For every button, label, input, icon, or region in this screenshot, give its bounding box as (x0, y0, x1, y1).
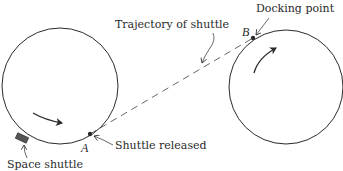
point-a-dot (88, 132, 92, 136)
point-b-label: B (242, 25, 250, 39)
trajectory-label: Trajectory of shuttle (115, 18, 229, 31)
right-rotation-arrow-icon (254, 48, 276, 73)
right-orbit-circle (229, 30, 343, 144)
orbit-diagram: Trajectory of shuttle Docking point Shut… (0, 0, 343, 171)
docking-point-label: Docking point (256, 2, 335, 15)
space-shuttle-leader (24, 145, 27, 158)
space-shuttle-label: Space shuttle (7, 158, 83, 171)
space-shuttle-icon (15, 133, 28, 144)
point-b-dot (251, 36, 255, 40)
point-a-label: A (80, 141, 89, 155)
docking-point-leader (256, 18, 269, 35)
shuttle-released-label: Shuttle released (115, 139, 207, 152)
left-rotation-arrow-icon (33, 113, 62, 123)
left-orbit-circle (2, 28, 118, 144)
trajectory-leader (202, 33, 214, 63)
shuttle-released-leader (94, 136, 113, 145)
